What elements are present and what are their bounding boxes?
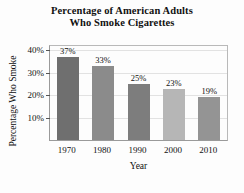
y-tick-label: 10% <box>28 113 45 123</box>
bar-value-label: 33% <box>95 55 111 65</box>
chart-figure: Percentage of American Adults Who Smoke … <box>0 0 244 193</box>
bar-value-label: 23% <box>166 78 182 88</box>
x-tick-label: 2000 <box>164 145 182 155</box>
x-tick-label: 1990 <box>129 145 147 155</box>
x-tick-label: 1980 <box>93 145 111 155</box>
y-tick-label: 30% <box>28 68 45 78</box>
y-tick-label: 20% <box>28 90 45 100</box>
bar[interactable]: 37% <box>57 57 79 140</box>
x-tick-label: 2010 <box>199 145 217 155</box>
y-tick-label: 40% <box>28 45 45 55</box>
plot-area: 10%20%30%40% 37%33%25%23%19% <box>49 45 228 141</box>
x-tick-label: 1970 <box>58 145 76 155</box>
bar[interactable]: 25% <box>128 84 150 140</box>
x-axis-ticks: 19701980199020002010 <box>49 145 228 158</box>
chart-title: Percentage of American Adults Who Smoke … <box>0 5 244 28</box>
bar-series: 37%33%25%23%19% <box>50 46 227 140</box>
y-axis-title: Percentage Who Smoke <box>8 41 18 161</box>
chart-title-line-2: Who Smoke Cigarettes <box>0 17 244 29</box>
x-axis-title: Year <box>49 161 228 171</box>
bar[interactable]: 19% <box>198 97 220 140</box>
bar-value-label: 19% <box>202 86 218 96</box>
bar[interactable]: 33% <box>92 66 114 140</box>
bar-value-label: 25% <box>131 73 147 83</box>
bar[interactable]: 23% <box>163 89 185 140</box>
chart-title-line-1: Percentage of American Adults <box>0 5 244 17</box>
bar-value-label: 37% <box>60 46 76 56</box>
